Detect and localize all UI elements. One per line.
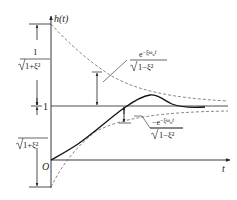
lower-envelope-curve	[51, 111, 228, 187]
svg-text:1−ξ²: 1−ξ²	[138, 62, 154, 72]
origin-label: O	[42, 161, 49, 172]
svg-text:1: 1	[33, 47, 38, 57]
upper-label-leader	[103, 60, 127, 82]
upper-dimension-label: 1 1+ξ²	[18, 47, 50, 71]
lower-envelope-label: −e−ξωnt 1−ξ²	[150, 117, 183, 140]
step-response-diagram: h(t) t O 1 1 1+ξ² 1+ξ² e−ξωnt	[0, 0, 237, 200]
upper-envelope-label: e−ξωnt 1−ξ²	[130, 49, 167, 72]
step-response-curve	[51, 95, 205, 160]
svg-text:−e−ξωnt: −e−ξωnt	[152, 117, 174, 127]
steady-state-label: 1	[43, 101, 48, 112]
svg-text:1+ξ²: 1+ξ²	[25, 61, 41, 71]
y-axis-label: h(t)	[54, 13, 69, 25]
svg-text:1+ξ²: 1+ξ²	[23, 140, 39, 150]
svg-text:1−ξ²: 1−ξ²	[159, 130, 175, 140]
svg-text:e−ξωnt: e−ξωnt	[139, 49, 157, 59]
lower-dimension-label: 1+ξ²	[16, 138, 48, 150]
x-axis-label: t	[222, 163, 225, 174]
